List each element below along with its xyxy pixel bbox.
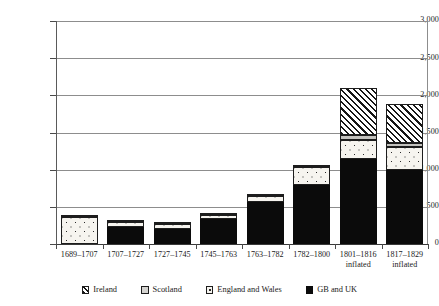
x-tick-label: 1801–1816inflated [335, 250, 382, 271]
bar-segment [293, 165, 330, 167]
x-tick-label-period: 1727–1745 [154, 250, 191, 259]
legend-item: England and Wales [206, 286, 282, 294]
legend-item: Scotland [141, 286, 182, 294]
bar-segment [154, 229, 191, 244]
bar-segment [61, 215, 98, 217]
legend-label: GB and UK [317, 286, 357, 294]
x-tick-label-note: inflated [335, 260, 382, 270]
bar-group [61, 215, 98, 244]
bar-segment [340, 159, 377, 244]
x-tick-mark [56, 244, 57, 249]
bar-segment [340, 140, 377, 159]
x-tick-mark [149, 244, 150, 249]
bar-segment [247, 202, 284, 244]
x-tick-label-note: inflated [382, 260, 429, 270]
x-tick-mark [196, 244, 197, 249]
x-tick-mark [289, 244, 290, 249]
legend-swatch-icon [306, 286, 314, 294]
x-tick-label-period: 1763–1782 [247, 250, 284, 259]
chart-legend: IrelandScotlandEngland and WalesGB and U… [0, 283, 439, 297]
bar-segment [293, 167, 330, 184]
x-tick-mark [242, 244, 243, 249]
x-tick-label: 1782–1800 [289, 250, 336, 260]
bar-segment [200, 215, 237, 219]
bar-segment [154, 224, 191, 230]
bar-group [293, 166, 330, 244]
x-tick-label: 1763–1782 [242, 250, 289, 260]
bar-segment [107, 227, 144, 244]
bar-group [386, 104, 423, 244]
bar-segment [340, 88, 377, 136]
x-tick-label-period: 1745–1763 [200, 250, 237, 259]
legend-item: GB and UK [306, 286, 358, 294]
x-tick-label: 1689–1707 [56, 250, 103, 260]
x-tick-label: 1727–1745 [149, 250, 196, 260]
x-tick-label-period: 1782–1800 [293, 250, 330, 259]
bar-segment [386, 143, 423, 147]
bar-segment [293, 185, 330, 244]
bar-segment [386, 104, 423, 143]
bar-segment [247, 196, 284, 202]
bar-group [247, 195, 284, 244]
bars-layer [56, 21, 428, 244]
x-tick-mark [428, 244, 429, 249]
x-tick-label-period: 1801–1816 [340, 250, 377, 259]
bar-group [107, 221, 144, 244]
x-tick-label: 1817–1829inflated [382, 250, 429, 271]
legend-swatch-icon [82, 286, 90, 294]
bar-segment [247, 194, 284, 196]
bar-segment [107, 222, 144, 228]
legend-label: England and Wales [217, 286, 281, 294]
x-tick-mark [382, 244, 383, 249]
x-tick-label-period: 1707–1727 [107, 250, 144, 259]
bar-group [340, 88, 377, 244]
bar-segment [200, 213, 237, 215]
x-tick-label-period: 1817–1829 [386, 250, 423, 259]
bar-segment [340, 135, 377, 139]
bar-segment [154, 222, 191, 224]
bar-segment [61, 217, 98, 245]
stacked-bar-chart: 05001,0001,5002,0002,5003,000 1689–17071… [0, 0, 439, 306]
x-tick-label: 1745–1763 [196, 250, 243, 260]
legend-swatch-icon [206, 286, 214, 294]
bar-group [200, 214, 237, 244]
bar-segment [200, 219, 237, 244]
bar-segment [107, 220, 144, 222]
bar-group [154, 223, 191, 244]
bar-segment [386, 147, 423, 169]
legend-label: Scotland [153, 286, 182, 294]
x-tick-mark [103, 244, 104, 249]
legend-label: Ireland [93, 286, 117, 294]
x-tick-label: 1707–1727 [103, 250, 150, 260]
x-tick-label-period: 1689–1707 [61, 250, 98, 259]
legend-item: Ireland [82, 286, 117, 294]
x-tick-mark [335, 244, 336, 249]
bar-segment [386, 170, 423, 244]
legend-swatch-icon [141, 286, 149, 294]
